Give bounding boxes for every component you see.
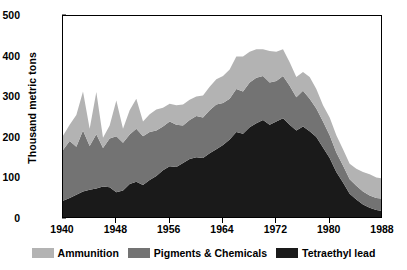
stacked-area-series: [63, 16, 382, 218]
y-axis-title: Thousand metric tons: [26, 23, 38, 193]
legend-label: Ammunition: [58, 247, 119, 259]
legend-swatch-icon: [128, 248, 150, 258]
plot-area: [62, 15, 382, 218]
x-tick-mark: [222, 218, 223, 223]
y-tick-label: 200: [2, 131, 20, 143]
x-tick-mark: [169, 218, 170, 223]
x-tick-label: 1940: [50, 223, 73, 235]
legend-swatch-icon: [276, 248, 298, 258]
y-tick-label: 0: [14, 212, 20, 224]
legend-label: Tetraethyl lead: [302, 247, 375, 259]
x-tick-label: 1988: [370, 223, 393, 235]
chart-legend: AmmunitionPigments & ChemicalsTetraethyl…: [0, 247, 407, 259]
x-tick-label: 1980: [317, 223, 340, 235]
x-tick-label: 1956: [157, 223, 180, 235]
y-tick-label: 500: [2, 9, 20, 21]
chart-figure: Thousand metric tons 0100200300400500 19…: [0, 0, 407, 270]
y-tick-label: 400: [2, 50, 20, 62]
x-tick-mark: [115, 218, 116, 223]
legend-item: Tetraethyl lead: [276, 247, 375, 259]
x-tick-mark: [275, 218, 276, 223]
x-tick-mark: [329, 218, 330, 223]
x-tick-label: 1972: [264, 223, 287, 235]
y-tick-label: 100: [2, 171, 20, 183]
x-tick-label: 1948: [104, 223, 127, 235]
x-tick-label: 1964: [210, 223, 233, 235]
y-tick-label: 300: [2, 90, 20, 102]
legend-item: Ammunition: [32, 247, 119, 259]
legend-swatch-icon: [32, 248, 54, 258]
legend-item: Pigments & Chemicals: [128, 247, 267, 259]
legend-label: Pigments & Chemicals: [154, 247, 267, 259]
